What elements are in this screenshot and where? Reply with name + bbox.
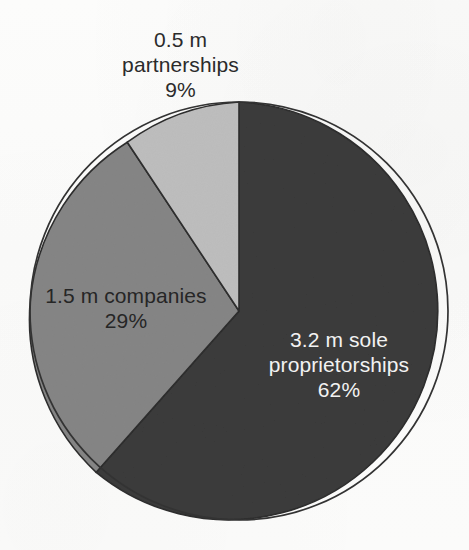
pie-chart: 0.5 m partnerships 9% 1.5 m companies 29… xyxy=(0,0,469,550)
pie-label-companies: 1.5 m companies 29% xyxy=(28,283,224,333)
pie-label-sole-proprietorships-percent: 62% xyxy=(243,377,435,402)
pie-label-companies-count-category: 1.5 m companies xyxy=(28,283,224,308)
pie-label-partnerships-percent: 9% xyxy=(93,77,268,102)
pie-label-partnerships: 0.5 m partnerships 9% xyxy=(93,27,268,103)
pie-label-partnerships-count: 0.5 m xyxy=(93,27,268,52)
pie-label-sole-proprietorships-count: 3.2 m sole xyxy=(243,327,435,352)
pie-chart-figure: 0.5 m partnerships 9% 1.5 m companies 29… xyxy=(0,0,469,550)
pie-label-partnerships-category: partnerships xyxy=(93,52,268,77)
pie-label-sole-proprietorships: 3.2 m sole proprietorships 62% xyxy=(243,327,435,403)
pie-label-companies-percent: 29% xyxy=(28,308,224,333)
pie-label-sole-proprietorships-category: proprietorships xyxy=(243,352,435,377)
